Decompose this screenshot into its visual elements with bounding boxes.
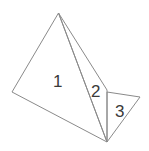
triangle-diagram: 1 2 3: [0, 0, 149, 151]
triangle-2: [59, 13, 108, 142]
triangle-3-label: 3: [115, 102, 124, 121]
triangle-2-label: 2: [91, 82, 100, 101]
triangle-1-label: 1: [53, 72, 62, 91]
